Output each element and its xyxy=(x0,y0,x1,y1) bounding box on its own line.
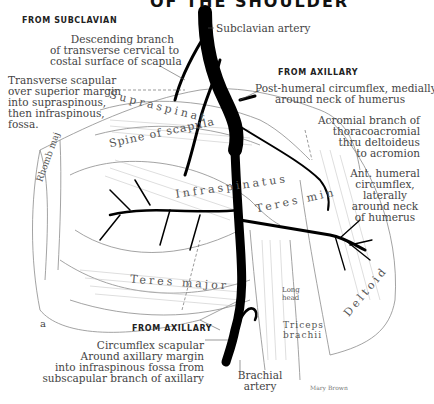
muscle-triceps: Triceps brachii xyxy=(283,320,323,340)
label-descending-branch: Descending branch of transverse cervical… xyxy=(50,34,174,67)
label-subclavian-artery: Subclavian artery xyxy=(216,23,311,34)
label-circumflex-scapular: Circumflex scapular Around axillary marg… xyxy=(40,340,204,384)
header-from-subclavian: FROM SUBCLAVIAN xyxy=(22,16,117,25)
label-post-humeral-circumflex: Post-humeral circumflex, medially around… xyxy=(255,83,425,105)
label-acromial-branch: Acromial branch of thoracoacromial thru … xyxy=(310,115,420,159)
figure-title-partial: OF THE SHOULDER xyxy=(150,0,349,11)
header-from-axillary-top: FROM AXILLARY xyxy=(278,68,358,77)
artist-signature: Mary Brown xyxy=(310,382,348,393)
label-brachial-artery: Brachial artery xyxy=(230,370,290,392)
anatomy-illustration: OF THE SHOULDER FROM SUBCLAVIAN FROM AXI… xyxy=(0,0,434,404)
label-ant-humeral-circumflex: Ant. humeral circumflex, laterally aroun… xyxy=(345,168,425,223)
label-transverse-scapular: Transverse scapular over superior margin… xyxy=(8,75,121,130)
muscle-long-head: Long head xyxy=(282,286,306,302)
figure-letter: a xyxy=(40,318,46,329)
header-from-axillary-bottom: FROM AXILLARY xyxy=(132,324,212,333)
